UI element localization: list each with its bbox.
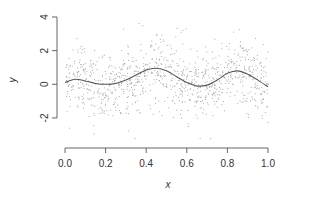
data-point [141,79,142,80]
data-point [174,70,175,71]
data-point [81,64,82,65]
data-point [111,93,112,94]
data-point [183,69,184,70]
data-point [127,97,128,98]
data-point [198,69,199,70]
data-point [107,89,108,90]
data-point [255,83,256,84]
data-point [254,87,255,88]
data-point [206,86,207,87]
data-point [113,104,114,105]
data-point [76,38,77,39]
data-point [245,95,246,96]
data-point [157,73,158,74]
data-point [84,104,85,105]
data-point [132,61,133,62]
data-point [99,94,100,95]
data-point [248,49,249,50]
data-point [205,82,206,83]
data-point [177,28,178,29]
data-point [156,79,157,80]
data-point [134,89,135,90]
data-point [102,76,103,77]
data-point [168,107,169,108]
data-point [181,86,182,87]
data-point [150,108,151,109]
data-point [70,65,71,66]
scatter-points [66,23,269,139]
data-point [175,36,176,37]
x-axis-title: x [165,179,172,190]
data-point [254,99,255,100]
data-point [216,101,217,102]
data-point [268,51,269,52]
data-point [143,57,144,58]
data-point [250,100,251,101]
data-point [91,86,92,87]
data-point [213,79,214,80]
data-point [240,57,241,58]
data-point [179,80,180,81]
data-point [167,45,168,46]
y-axis-ticks: -2024 [39,14,58,123]
data-point [139,68,140,69]
data-point [187,68,188,69]
data-point [157,71,158,72]
data-point [140,50,141,51]
data-point [260,101,261,102]
data-point [158,101,159,102]
data-point [194,86,195,87]
data-point [244,76,245,77]
data-point [82,83,83,84]
data-point [185,66,186,67]
data-point [210,138,211,139]
data-point [252,99,253,100]
data-point [157,75,158,76]
data-point [187,76,188,77]
data-point [162,115,163,116]
data-point [221,83,222,84]
data-point [123,93,124,94]
data-point [262,118,263,119]
data-point [163,84,164,85]
data-point [78,80,79,81]
data-point [74,75,75,76]
data-point [90,60,91,61]
data-point [130,83,131,84]
data-point [156,35,157,36]
data-point [101,113,102,114]
data-point [120,81,121,82]
data-point [187,90,188,91]
data-point [212,83,213,84]
data-point [172,78,173,79]
data-point [105,104,106,105]
data-point [84,88,85,89]
data-point [209,87,210,88]
data-point [66,64,67,65]
x-tick-label: 0.8 [220,158,234,169]
data-point [260,94,261,95]
data-point [240,45,241,46]
data-point [204,77,205,78]
data-point [138,71,139,72]
data-point [219,87,220,88]
data-point [123,29,124,30]
data-point [105,92,106,93]
data-point [264,91,265,92]
data-point [243,86,244,87]
data-point [127,86,128,87]
data-point [113,115,114,116]
data-point [130,66,131,67]
data-point [208,69,209,70]
data-point [197,88,198,89]
data-point [127,69,128,70]
data-point [265,66,266,67]
data-point [163,75,164,76]
data-point [160,52,161,53]
data-point [156,63,157,64]
data-point [200,91,201,92]
data-point [219,81,220,82]
data-point [159,111,160,112]
data-point [190,49,191,50]
data-point [82,99,83,100]
